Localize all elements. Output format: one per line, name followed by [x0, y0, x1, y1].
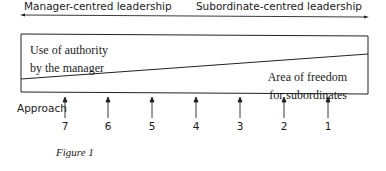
approach-number-3: 3	[234, 120, 246, 132]
upper-region-line-2: by the manager	[30, 59, 108, 77]
area-of-freedom-text: Area of freedom for subordinates	[268, 68, 347, 104]
approach-number-6: 6	[102, 120, 114, 132]
arrow-left-icon	[20, 14, 25, 17]
figure-caption: Figure 1	[56, 146, 94, 158]
approach-number-2: 2	[278, 120, 290, 132]
lower-region-line-2: for subordinates	[268, 86, 347, 104]
arrow-up-icon	[150, 97, 154, 102]
approach-number-5: 5	[146, 120, 158, 132]
upper-region-line-1: Use of authority	[30, 41, 108, 59]
arrow-up-icon	[238, 97, 242, 102]
approach-number-7: 7	[59, 120, 71, 132]
arrow-up-icon	[194, 97, 198, 102]
approach-number-1: 1	[322, 120, 334, 132]
approach-label: Approach	[17, 102, 67, 114]
lower-region-line-1: Area of freedom	[268, 68, 347, 86]
approach-number-4: 4	[190, 120, 202, 132]
arrow-up-icon	[106, 97, 110, 102]
continuum-axis-arrow	[20, 14, 369, 19]
arrow-right-icon	[364, 16, 369, 19]
use-of-authority-text: Use of authority by the manager	[30, 41, 108, 77]
